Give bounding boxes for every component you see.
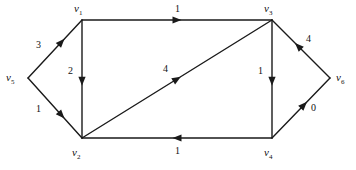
node-label-v2: v2 (72, 147, 80, 161)
graph-figure: 311241104v5v1v2v3v4v6 (0, 0, 356, 170)
edge-capacity-label: 1 (36, 104, 41, 114)
edge-arrowhead-icon (173, 134, 182, 141)
edge-capacity-label: 4 (163, 64, 168, 74)
node-label-v6: v6 (336, 72, 344, 86)
graph-edge (82, 20, 272, 138)
graph-edge (78, 20, 85, 138)
node-label-v3: v3 (264, 3, 272, 17)
edge-capacity-label: 1 (175, 146, 180, 156)
node-label-v5: v5 (6, 72, 14, 86)
graph-edge (82, 134, 272, 141)
edge-arrowhead-icon (173, 16, 182, 23)
edge-arrowhead-icon (171, 77, 181, 85)
node-label-v4: v4 (264, 147, 272, 161)
graph-edge (272, 78, 330, 138)
edge-capacity-label: 1 (175, 4, 180, 14)
edge-arrowhead-icon (268, 77, 275, 86)
graph-edge (272, 20, 330, 78)
node-label-v1: v1 (74, 3, 82, 17)
edge-capacity-label: 0 (311, 103, 316, 113)
edge-capacity-label: 2 (68, 66, 73, 76)
edge-capacity-label: 3 (36, 40, 41, 50)
edge-capacity-label: 1 (258, 66, 263, 76)
edge-arrowhead-icon (78, 77, 85, 86)
edge-capacity-label: 4 (306, 34, 311, 44)
graph-edge (82, 16, 272, 23)
graph-edge (268, 20, 275, 138)
